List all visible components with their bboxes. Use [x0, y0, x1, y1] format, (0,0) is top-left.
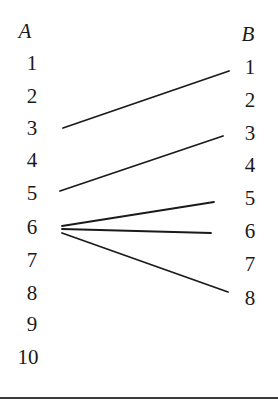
bottom-divider	[0, 397, 278, 399]
edge-a3-b1	[63, 71, 229, 128]
edge-a6-b6	[62, 229, 211, 233]
mapping-edges	[0, 0, 278, 404]
edge-a6-b5	[62, 202, 214, 226]
edge-a5-b3	[60, 136, 223, 191]
edge-a6-b8	[62, 233, 228, 292]
